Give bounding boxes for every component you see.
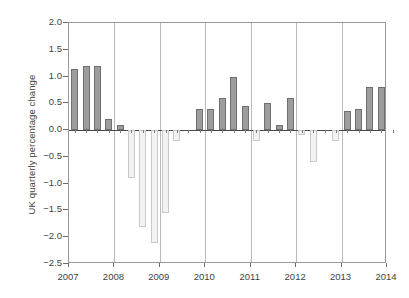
bar-2013-q3	[366, 87, 373, 130]
quarter-tick-mark	[86, 130, 87, 133]
plot-area	[68, 22, 386, 263]
year-gridline	[251, 23, 252, 262]
x-tick-label: 2009	[148, 271, 169, 282]
year-gridline	[114, 23, 115, 262]
x-tick-label: 2013	[330, 271, 351, 282]
bar-2007-q4	[105, 119, 112, 130]
quarter-tick-mark	[75, 130, 76, 133]
y-tick-label: −0.5	[20, 150, 62, 161]
quarter-tick-mark	[200, 130, 201, 133]
bar-2009-q1	[162, 130, 169, 213]
x-tick-mark	[159, 263, 160, 267]
quarter-tick-mark	[347, 130, 348, 133]
x-tick-label: 2014	[375, 271, 396, 282]
quarter-tick-mark	[302, 130, 303, 133]
quarter-tick-mark	[143, 130, 144, 133]
x-tick-label: 2011	[239, 271, 259, 282]
quarter-tick-mark	[290, 130, 291, 133]
quarter-tick-mark	[131, 130, 132, 133]
quarter-tick-mark	[370, 130, 371, 133]
quarter-tick-mark	[222, 130, 223, 133]
y-tick-label: −1.0	[20, 177, 62, 188]
bar-2008-q4	[151, 130, 158, 242]
y-axis-title: UK quarterly percentage change	[26, 30, 37, 260]
quarter-tick-mark	[381, 130, 382, 133]
x-tick-mark	[341, 263, 342, 267]
quarter-tick-mark	[154, 130, 155, 133]
x-tick-label: 2010	[194, 271, 215, 282]
quarter-tick-mark	[109, 130, 110, 133]
bar-2010-q2	[219, 98, 226, 130]
bar-chart: UK quarterly percentage change 2.01.51.0…	[0, 0, 409, 298]
quarter-tick-mark	[234, 130, 235, 133]
x-tick-label: 2007	[57, 271, 78, 282]
bar-2007-q2	[83, 66, 90, 130]
y-tick-label: −2.5	[20, 257, 62, 268]
quarter-tick-mark	[97, 130, 98, 133]
year-gridline	[205, 23, 206, 262]
x-tick-mark	[250, 263, 251, 267]
x-tick-mark	[113, 263, 114, 267]
bar-2007-q3	[94, 66, 101, 130]
x-tick-mark	[295, 263, 296, 267]
year-gridline	[296, 23, 297, 262]
y-tick-label: 0.0	[20, 123, 62, 134]
quarter-tick-mark	[120, 130, 121, 133]
quarter-tick-mark	[279, 130, 280, 133]
x-tick-mark	[204, 263, 205, 267]
y-tick-label: 1.0	[20, 70, 62, 81]
quarter-tick-mark	[245, 130, 246, 133]
bar-2011-q4	[287, 98, 294, 130]
quarter-tick-mark	[313, 130, 314, 133]
bar-2012-q2	[310, 130, 317, 162]
bar-2007-q1	[71, 69, 78, 131]
quarter-tick-mark	[268, 130, 269, 133]
bar-2013-q4	[378, 87, 385, 130]
bar-2010-q3	[230, 77, 237, 131]
quarter-tick-mark	[359, 130, 360, 133]
quarter-tick-mark	[256, 130, 257, 133]
x-tick-mark	[386, 263, 387, 267]
bar-2008-q3	[139, 130, 146, 226]
quarter-tick-mark	[336, 130, 337, 133]
quarter-tick-mark	[188, 130, 189, 133]
y-tick-label: 1.5	[20, 43, 62, 54]
y-tick-label: −1.5	[20, 203, 62, 214]
y-tick-label: −2.0	[20, 230, 62, 241]
y-tick-label: 0.5	[20, 96, 62, 107]
year-gridline	[342, 23, 343, 262]
quarter-tick-mark	[211, 130, 212, 133]
y-tick-label: 2.0	[20, 16, 62, 27]
bar-2011-q2	[264, 103, 271, 130]
quarter-tick-mark	[166, 130, 167, 133]
x-tick-mark	[68, 263, 69, 267]
x-tick-label: 2008	[103, 271, 124, 282]
bar-2013-q2	[355, 109, 362, 130]
year-gridline	[160, 23, 161, 262]
bar-2010-q4	[242, 106, 249, 130]
quarter-tick-mark	[325, 130, 326, 133]
bar-2013-q1	[344, 111, 351, 130]
bar-2009-q4	[196, 109, 203, 130]
bar-2010-q1	[207, 109, 214, 130]
bar-2008-q2	[128, 130, 135, 178]
quarter-tick-mark	[177, 130, 178, 133]
x-tick-label: 2012	[285, 271, 306, 282]
quarter-tick-mark	[393, 130, 394, 133]
